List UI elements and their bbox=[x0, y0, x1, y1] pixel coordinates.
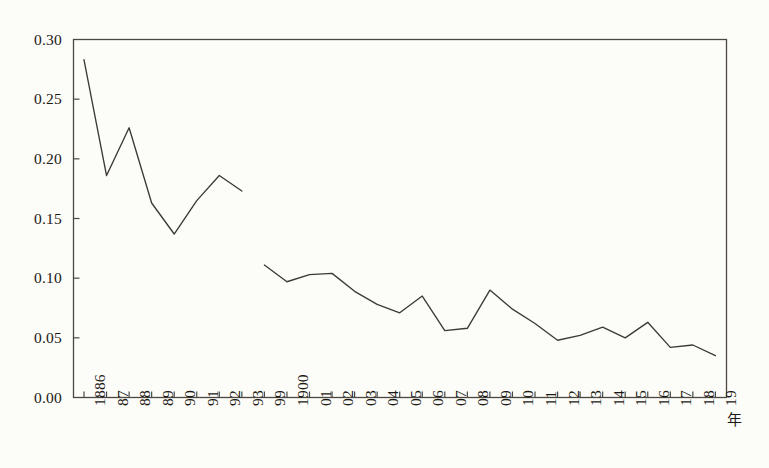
y-axis-tick-label: 0.30 bbox=[16, 31, 62, 49]
x-axis-tick-label: 90 bbox=[181, 390, 199, 406]
y-axis-tick-label: 0.10 bbox=[16, 269, 62, 287]
x-axis-tick-label: 19 bbox=[722, 390, 740, 406]
x-axis-tick-label: 12 bbox=[565, 390, 583, 406]
x-axis-tick-label: 88 bbox=[136, 390, 154, 406]
x-axis-tick-label: 10 bbox=[519, 390, 537, 406]
x-axis-tick-label: 02 bbox=[339, 390, 357, 406]
x-axis-tick-label: 17 bbox=[677, 390, 695, 406]
x-axis-tick-label: 93 bbox=[249, 390, 267, 406]
x-axis-tick-label: 07 bbox=[452, 390, 470, 406]
x-axis-tick-label: 01 bbox=[317, 390, 335, 406]
y-axis-tick-label: 0.15 bbox=[16, 210, 62, 228]
x-axis-tick-label: 16 bbox=[655, 390, 673, 406]
x-axis-tick-label: 18 bbox=[700, 390, 718, 406]
x-axis-tick-label: 92 bbox=[226, 390, 244, 406]
x-axis-tick-label: 1886 bbox=[91, 374, 109, 406]
x-axis-tick-label: 04 bbox=[384, 390, 402, 406]
x-axis-tick-label: 11 bbox=[542, 390, 560, 405]
y-axis-tick-label: 0.05 bbox=[16, 329, 62, 347]
x-axis-tick-label: 09 bbox=[497, 390, 515, 406]
x-axis-tick-label: 91 bbox=[204, 390, 222, 406]
y-axis-tick-marks bbox=[74, 99, 80, 338]
y-axis-tick-label: 0.25 bbox=[16, 90, 62, 108]
x-axis-tick-label: 08 bbox=[474, 390, 492, 406]
x-axis-tick-label: 15 bbox=[632, 390, 650, 406]
chart-figure: 0.300.250.200.150.100.050.00 18868788899… bbox=[0, 0, 769, 468]
x-axis-tick-label: 03 bbox=[362, 390, 380, 406]
x-axis-tick-label: 05 bbox=[407, 390, 425, 406]
plot-axes-frame bbox=[74, 40, 727, 398]
x-axis-tick-label: 14 bbox=[610, 390, 628, 406]
x-axis-tick-label: 13 bbox=[587, 390, 605, 406]
x-axis-tick-label: 99 bbox=[271, 390, 289, 406]
x-axis-tick-label: 1900 bbox=[294, 374, 312, 406]
x-axis-unit-label: 年 bbox=[727, 408, 742, 429]
y-axis-tick-label: 0.20 bbox=[16, 150, 62, 168]
x-axis-tick-label: 87 bbox=[114, 390, 132, 406]
y-axis-tick-label: 0.00 bbox=[16, 389, 62, 407]
x-axis-tick-label: 06 bbox=[429, 390, 447, 406]
x-axis-tick-label: 89 bbox=[159, 390, 177, 406]
data-series-lines bbox=[84, 60, 715, 356]
